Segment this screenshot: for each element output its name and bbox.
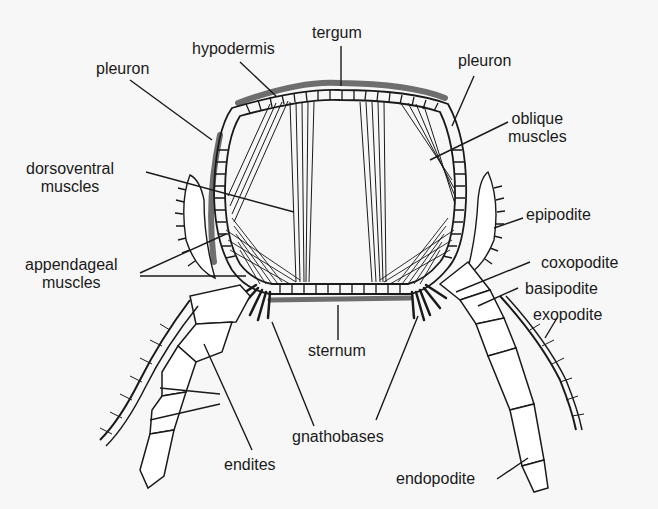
label-sternum: sternum <box>308 342 366 360</box>
label-coxopodite: coxopodite <box>541 254 618 272</box>
appendageal-muscles <box>226 218 454 284</box>
label-exopodite: exopodite <box>533 306 602 324</box>
label-oblique-muscles: oblique muscles <box>508 110 567 146</box>
label-endites: endites <box>224 456 276 474</box>
label-appendageal-line2: muscles <box>25 274 118 292</box>
label-endopodite: endopodite <box>396 470 475 488</box>
label-oblique-line1: oblique <box>508 110 567 128</box>
label-pleuron-left: pleuron <box>96 60 149 78</box>
label-pleuron-right: pleuron <box>458 52 511 70</box>
epipodite-right <box>466 172 505 276</box>
label-epipodite: epipodite <box>526 206 591 224</box>
label-oblique-line2: muscles <box>508 128 567 146</box>
label-appendageal-line1: appendageal <box>25 256 118 274</box>
label-basipodite: basipodite <box>525 280 598 298</box>
dorsoventral-muscles <box>290 102 386 282</box>
label-appendageal-muscles: appendageal muscles <box>25 256 118 292</box>
label-dorsoventral-line1: dorsoventral <box>26 160 114 178</box>
gnathobases <box>236 285 446 320</box>
label-hypodermis: hypodermis <box>192 40 275 58</box>
label-gnathobases: gnathobases <box>292 428 384 446</box>
label-dorsoventral-muscles: dorsoventral muscles <box>26 160 114 196</box>
label-dorsoventral-line2: muscles <box>26 178 114 196</box>
label-tergum: tergum <box>312 24 362 42</box>
